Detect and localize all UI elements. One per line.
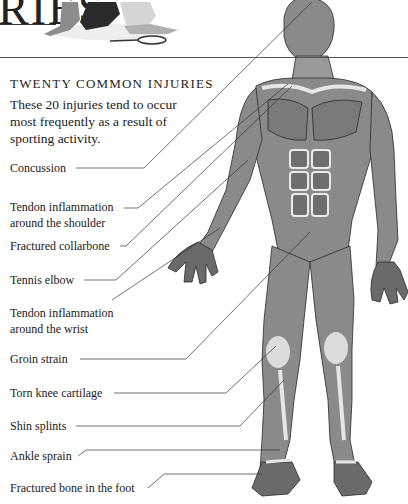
leader-ankle (78, 450, 280, 456)
injury-label-ankle-sprain: Ankle sprain (10, 448, 72, 464)
section-heading: TWENTY COMMON INJURIES (10, 76, 214, 92)
label-text: around the shoulder (10, 216, 105, 230)
label-text: around the wrist (10, 322, 88, 336)
leader-shin (76, 380, 284, 426)
section-intro: These 20 injuries tend to occur most fre… (10, 96, 180, 147)
header-divider (0, 57, 408, 58)
label-text: Shin splints (10, 419, 66, 433)
label-text: Concussion (10, 161, 66, 175)
label-text: Tendon inflammation (10, 306, 113, 320)
label-text: Tennis elbow (10, 273, 74, 287)
injury-label-tennis-elbow: Tennis elbow (10, 272, 74, 288)
injury-label-shin-splints: Shin splints (10, 418, 66, 434)
injury-label-collarbone: Fractured collarbone (10, 238, 110, 254)
label-text: Ankle sprain (10, 449, 72, 463)
injury-label-shoulder-tendon: Tendon inflammationaround the shoulder (10, 199, 113, 231)
label-text: Fractured bone in the foot (10, 481, 135, 495)
leader-knee (114, 346, 276, 393)
injury-label-wrist-tendon: Tendon inflammationaround the wrist (10, 305, 113, 337)
injury-label-concussion: Concussion (10, 160, 66, 176)
leader-foot (148, 474, 262, 488)
injury-label-knee-cartilage: Torn knee cartilage (10, 385, 102, 401)
label-text: Groin strain (10, 352, 68, 366)
injury-label-groin: Groin strain (10, 351, 68, 367)
label-text: Fractured collarbone (10, 239, 110, 253)
tennis-players-photo (44, 2, 178, 44)
label-text: Tendon inflammation (10, 200, 113, 214)
label-text: Torn knee cartilage (10, 386, 102, 400)
anatomy-figure (168, 0, 408, 496)
injury-label-foot-fracture: Fractured bone in the foot (10, 480, 135, 496)
